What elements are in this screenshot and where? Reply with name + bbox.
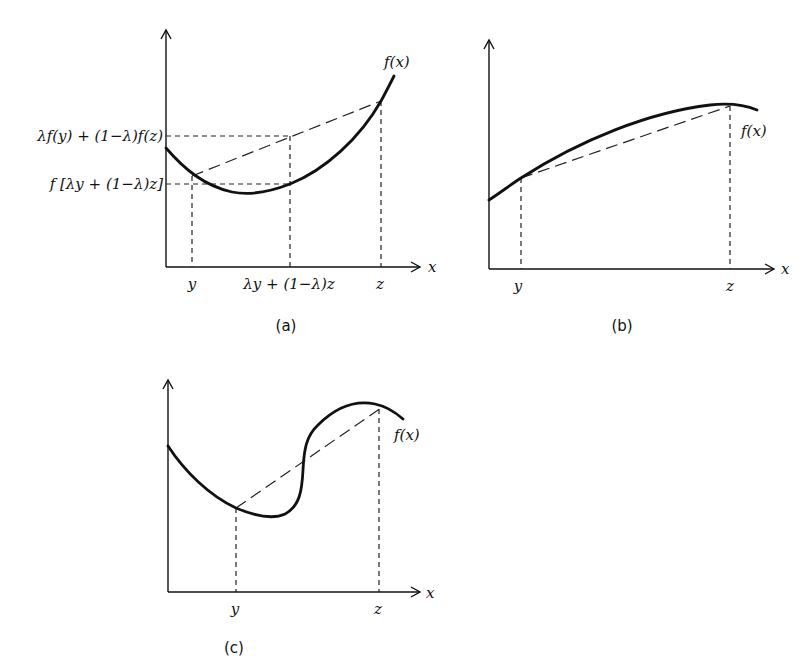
panel-a-curve xyxy=(166,76,394,193)
panel-b-function-label: f(x) xyxy=(740,122,767,140)
panel-c-x-tick-z: z xyxy=(373,600,382,618)
panel-c-x-tick-y: y xyxy=(230,600,240,618)
panel-c-caption: (c) xyxy=(224,639,244,657)
panel-b-x-axis-label: x xyxy=(781,260,790,278)
panel-c-neither: f(x) x y z (c) xyxy=(168,380,435,657)
panel-a-x-tick-mid: λy + (1−λ)z xyxy=(242,275,334,293)
panel-a-x-axis-label: x xyxy=(428,258,437,276)
panel-b-x-tick-y: y xyxy=(513,277,523,295)
panel-a-convex: f(x) x λf(y) + (1−λ)f(z) f [λy + (1−λ)z]… xyxy=(36,30,437,335)
panel-b-concave: f(x) x y z (b) xyxy=(489,40,790,335)
panel-a-x-tick-z: z xyxy=(375,275,384,293)
panel-b-curve xyxy=(489,104,757,200)
panel-a-function-label: f(x) xyxy=(383,53,410,71)
panel-a-caption: (a) xyxy=(276,317,297,335)
panel-c-x-axis-label: x xyxy=(426,584,435,602)
panel-c-chord xyxy=(236,408,381,508)
panel-b-chord xyxy=(521,106,730,178)
convexity-figure: f(x) x λf(y) + (1−λ)f(z) f [λy + (1−λ)z]… xyxy=(0,0,804,668)
panel-c-curve xyxy=(168,403,403,517)
panel-b-x-tick-z: z xyxy=(725,277,734,295)
panel-a-y-tick-lower: f [λy + (1−λ)z] xyxy=(49,175,163,193)
panel-a-x-tick-y: y xyxy=(187,275,197,293)
panel-a-y-tick-upper: λf(y) + (1−λ)f(z) xyxy=(36,127,163,145)
panel-c-function-label: f(x) xyxy=(393,426,420,444)
panel-b-caption: (b) xyxy=(611,317,632,335)
